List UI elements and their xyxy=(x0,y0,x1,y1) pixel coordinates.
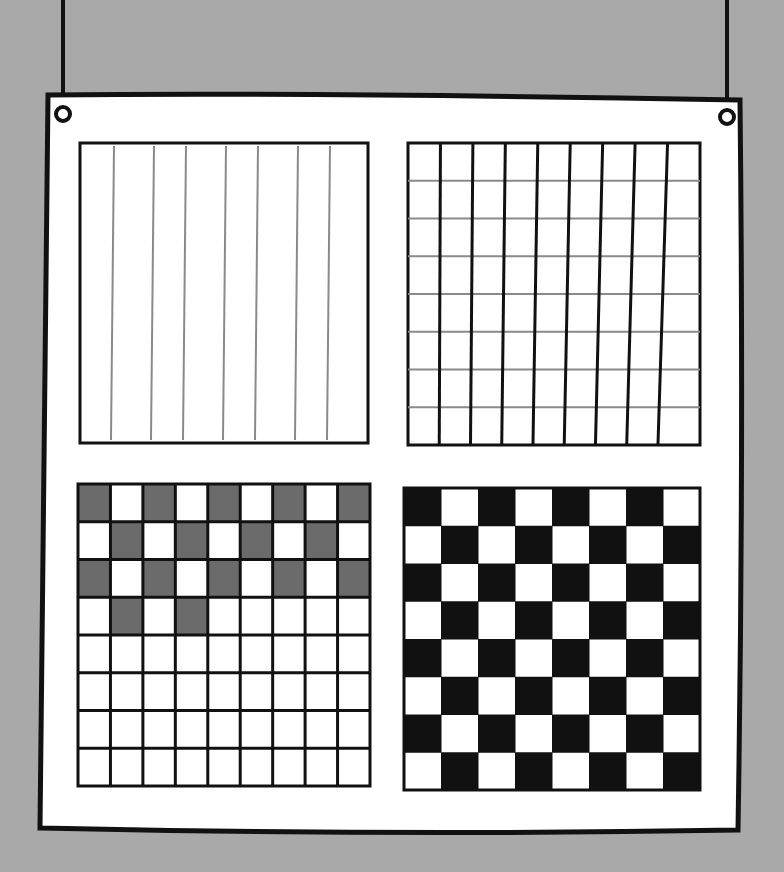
panel-vertical-lines xyxy=(80,143,368,443)
hanging-board-diagram xyxy=(0,0,784,872)
right-grommet-icon xyxy=(720,110,734,124)
panel-partial-checkerboard xyxy=(78,484,370,786)
panel-full-checkerboard xyxy=(404,488,701,791)
panel-grid xyxy=(408,143,700,445)
left-grommet-icon xyxy=(56,107,70,121)
